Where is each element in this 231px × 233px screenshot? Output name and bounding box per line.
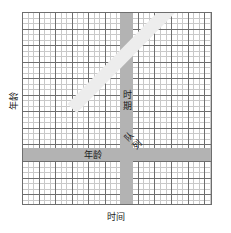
lexis-diagram-figure: 时期 年龄 队列 年龄 时间: [0, 0, 231, 233]
y-axis-label: 年龄: [7, 92, 20, 110]
major-gridlines: [22, 12, 212, 205]
x-axis-label: 时间: [0, 210, 231, 223]
age-band: [22, 148, 212, 161]
period-band-label: 时期: [122, 90, 132, 112]
age-band-label: 年龄: [84, 149, 102, 161]
plot-area: 时期 年龄 队列: [22, 12, 212, 205]
